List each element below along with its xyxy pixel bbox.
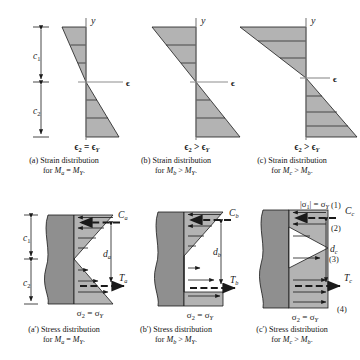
dimension-label-c1-a: c1 xyxy=(33,51,40,62)
stress-panel-a: c1 c2 Ca Ta da σ2 = σY xyxy=(23,209,128,319)
strain-wedge-lower-c xyxy=(306,78,357,137)
strain-symbol-c: ϵ xyxy=(333,74,337,84)
figure-root: y ϵ c1 c2 ϵ2 = ϵY y ϵ ϵ2 > ϵY xyxy=(0,0,360,360)
y-axis-label-c: y xyxy=(310,15,316,26)
beam-section-b xyxy=(154,212,184,306)
dimension-label-c2-a-prime: c2 xyxy=(23,278,30,289)
caption-stress-a-line1: (a′) Stress distribution xyxy=(6,325,122,335)
caption-stress-a-line2: for Ma = MY. xyxy=(6,335,122,347)
stress-bottom-label-a: σ2 = σY xyxy=(77,308,105,319)
strain-wedge-lower-a xyxy=(86,82,119,137)
beam-section-a xyxy=(44,215,74,304)
moment-arm-label-c: dc xyxy=(330,243,338,255)
caption-stress-b: (b′) Stress distribution for Mb > MY. xyxy=(118,325,234,348)
caption-stress-a: (a′) Stress distribution for Ma = MY. xyxy=(6,325,122,348)
callout-4-c: (4) xyxy=(337,305,347,314)
dimension-lines-a xyxy=(33,27,49,137)
caption-strain-c: (c) Strain distribution for Mc > Mb. xyxy=(236,156,348,179)
moment-arm-label-a: da xyxy=(103,248,111,260)
strain-panel-c: y ϵ ϵ2 > ϵY xyxy=(240,15,357,153)
strain-symbol-b: ϵ xyxy=(231,78,235,88)
dimension-lines-a-prime xyxy=(24,215,38,304)
stress-panel-c: |σ1| = σY (1) (2) (3) (4) Cc Tc dc σ2 = … xyxy=(259,199,354,323)
strain-wedge-upper-a xyxy=(62,27,86,82)
dimension-label-c2-a: c2 xyxy=(33,106,40,117)
callout-2-c: (2) xyxy=(331,224,341,233)
strain-bottom-label-a: ϵ2 = ϵY xyxy=(75,142,101,153)
strain-wedge-upper-c xyxy=(240,27,306,78)
caption-strain-b-line1: (b) Strain distribution xyxy=(120,156,232,166)
caption-strain-b: (b) Strain distribution for Mb > MY. xyxy=(120,156,232,179)
y-axis-label-a: y xyxy=(90,15,96,26)
moment-arm-label-b: db xyxy=(213,246,221,258)
strain-bottom-label-c: ϵ2 > ϵY xyxy=(295,142,321,153)
caption-stress-c: (c′) Stress distribution for Mc > Mb. xyxy=(234,325,350,348)
compression-force-label-c: Cc xyxy=(345,205,354,217)
stress-bottom-label-c: σ2 = σY xyxy=(292,312,320,323)
beam-section-c xyxy=(259,210,289,308)
caption-strain-b-line2: for Mb > MY. xyxy=(120,166,232,178)
strain-wedge-lower-b xyxy=(196,82,240,137)
caption-strain-c-line2: for Mc > Mb. xyxy=(236,166,348,178)
y-axis-label-b: y xyxy=(200,15,206,26)
caption-strain-a: (a) Strain distribution for Ma = MY. xyxy=(8,156,120,179)
strain-panel-a: y ϵ c1 c2 ϵ2 = ϵY xyxy=(33,15,130,153)
stress-bottom-label-b: σ2 = σY xyxy=(187,310,215,321)
compression-force-label-b: Cb xyxy=(229,207,239,219)
caption-strain-a-line1: (a) Strain distribution xyxy=(8,156,120,166)
stress-panel-b: Cb Tb db σ2 = σY xyxy=(154,207,238,321)
tension-force-label-a: Ta xyxy=(119,272,128,284)
figure-svg: y ϵ c1 c2 ϵ2 = ϵY y ϵ ϵ2 > ϵY xyxy=(0,0,360,360)
strain-symbol-a: ϵ xyxy=(126,78,130,88)
caption-strain-c-line1: (c) Strain distribution xyxy=(236,156,348,166)
caption-strain-a-line2: for Ma = MY. xyxy=(8,166,120,178)
tension-force-label-c: Tc xyxy=(344,272,352,284)
dimension-label-c1-a-prime: c1 xyxy=(23,233,30,244)
strain-bottom-label-b: ϵ2 > ϵY xyxy=(185,142,211,153)
caption-stress-b-line2: for Mb > MY. xyxy=(118,335,234,347)
compression-force-label-a: Ca xyxy=(118,209,128,221)
tension-force-label-b: Tb xyxy=(230,274,239,286)
caption-stress-c-line2: for Mc > Mb. xyxy=(234,335,350,347)
stress-top-label-c: |σ1| = σY xyxy=(300,199,329,210)
stress-wedge-lower-b xyxy=(184,256,223,306)
strain-wedge-upper-b xyxy=(152,27,196,82)
callout-1-c: (1) xyxy=(331,201,341,210)
caption-stress-b-line1: (b′) Stress distribution xyxy=(118,325,234,335)
strain-panel-b: y ϵ ϵ2 > ϵY xyxy=(152,15,240,153)
caption-stress-c-line1: (c′) Stress distribution xyxy=(234,325,350,335)
stress-wedge-lower-a xyxy=(74,259,113,304)
callout-3-c: (3) xyxy=(329,255,339,264)
